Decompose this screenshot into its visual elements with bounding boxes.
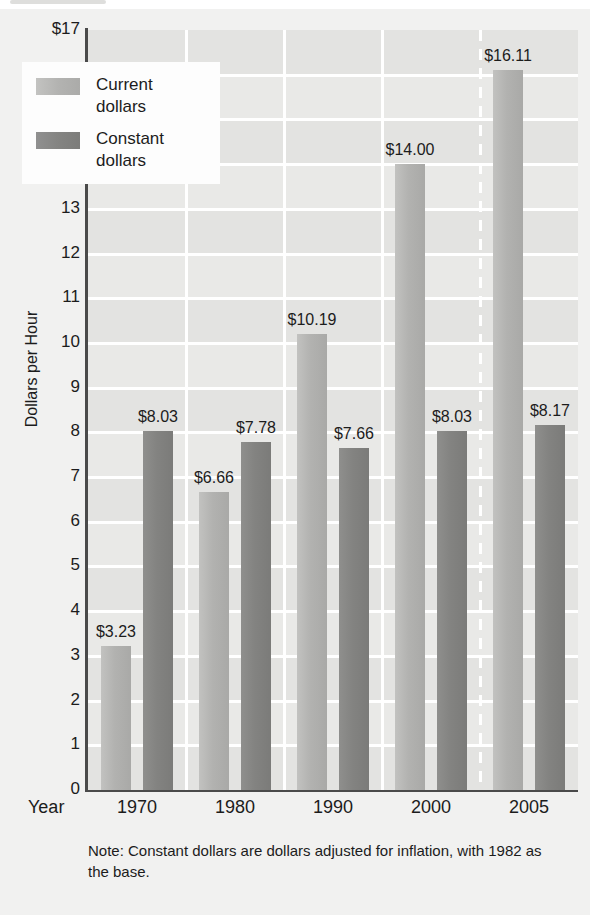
bar-1970-current: [101, 646, 131, 790]
y-axis-tick-label: $17: [20, 19, 80, 39]
legend-item-constant-dollars: Constant dollars: [36, 128, 164, 172]
bar-value-label: $8.03: [118, 408, 198, 426]
bar-value-label: $16.11: [468, 47, 548, 65]
bar-value-label: $14.00: [370, 141, 450, 159]
bar-1970-constant: [143, 431, 173, 790]
bar-1990-constant: [339, 448, 369, 790]
y-axis-tick-label: 13: [20, 198, 80, 218]
bar-2005-current: [493, 70, 523, 790]
y-axis-tick-label: 1: [20, 734, 80, 754]
bar-2005-constant: [535, 425, 565, 790]
scan-artifact-strip: [0, 0, 590, 9]
bar-value-label: $10.19: [272, 311, 352, 329]
x-axis-tick-label-1980: 1980: [190, 797, 280, 818]
y-axis-tick-label: 6: [20, 511, 80, 531]
x-axis-tick-label-2005: 2005: [484, 797, 574, 818]
x-axis-tick-label-1970: 1970: [92, 797, 182, 818]
vertical-gridline: [283, 30, 286, 790]
bar-2000-current: [395, 164, 425, 790]
chart-legend: Current dollars Constant dollars: [22, 62, 220, 184]
y-axis-tick-label: 7: [20, 466, 80, 486]
legend-swatch-current-dollars: [36, 78, 80, 95]
legend-label-constant-line2: dollars: [96, 150, 164, 172]
legend-label-current-line2: dollars: [96, 96, 153, 118]
y-axis-tick-label: 3: [20, 645, 80, 665]
y-axis-tick-label: 5: [20, 555, 80, 575]
legend-label-constant-dollars: Constant dollars: [96, 128, 164, 172]
y-axis-title: Dollars per Hour: [23, 289, 41, 449]
chart-figure: 012345678910111213141516$17 Dollars per …: [0, 0, 590, 915]
x-axis-title: Year: [28, 797, 64, 818]
legend-swatch-constant-dollars: [36, 132, 80, 149]
legend-item-current-dollars: Current dollars: [36, 74, 153, 118]
y-axis-tick-label: 4: [20, 600, 80, 620]
bar-value-label: $7.78: [216, 419, 296, 437]
legend-label-current-dollars: Current dollars: [96, 74, 153, 118]
y-axis-tick-label: 2: [20, 690, 80, 710]
bar-value-label: $7.66: [314, 425, 394, 443]
bar-2000-constant: [437, 431, 467, 790]
bar-value-label: $8.17: [510, 402, 590, 420]
y-axis-tick-label: 0: [20, 779, 80, 799]
x-axis-tick-label-1990: 1990: [288, 797, 378, 818]
legend-label-constant-line1: Constant: [96, 128, 164, 150]
bar-1990-current: [297, 334, 327, 790]
legend-label-current-line1: Current: [96, 74, 153, 96]
bar-value-label: $8.03: [412, 408, 492, 426]
bar-1980-constant: [241, 442, 271, 790]
bar-1980-current: [199, 492, 229, 790]
chart-footnote: Note: Constant dollars are dollars adjus…: [88, 840, 558, 883]
y-axis-tick-label: 12: [20, 243, 80, 263]
x-axis-tick-label-2000: 2000: [386, 797, 476, 818]
